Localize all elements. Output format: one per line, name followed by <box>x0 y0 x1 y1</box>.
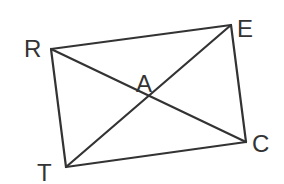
vertex-label-e: E <box>237 15 253 42</box>
side-ec <box>231 25 246 142</box>
vertex-label-r: R <box>24 35 41 62</box>
vertex-label-t: T <box>37 159 52 184</box>
rectangle-diagram: R E C T A <box>0 0 284 184</box>
side-re <box>51 25 231 49</box>
side-tr <box>51 49 66 167</box>
side-ct <box>66 142 246 167</box>
vertex-label-c: C <box>252 130 269 157</box>
intersection-label-a: A <box>136 70 152 97</box>
